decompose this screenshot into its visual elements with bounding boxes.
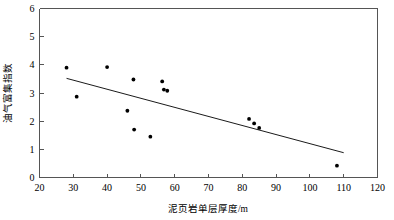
data-point <box>335 164 339 168</box>
x-tick-label: 120 <box>370 182 385 193</box>
y-tick-label: 4 <box>30 59 35 70</box>
x-tick-label: 80 <box>237 182 247 193</box>
y-tick-label: 5 <box>30 31 35 42</box>
data-point <box>160 80 164 84</box>
x-tick-label: 90 <box>271 182 281 193</box>
x-tick-label: 100 <box>302 182 317 193</box>
y-axis-title: 油气富集指数 <box>2 63 13 123</box>
data-point <box>252 122 256 126</box>
data-point <box>125 109 129 113</box>
data-point <box>247 117 251 121</box>
data-point <box>148 135 152 139</box>
chart-canvas: 2030405060708090100110120 0123456 泥页岩单层厚… <box>0 0 394 220</box>
chart-background <box>0 0 394 220</box>
x-tick-label: 110 <box>336 182 351 193</box>
y-tick-label: 0 <box>30 172 35 183</box>
x-axis-title: 泥页岩单层厚度/m <box>168 203 249 214</box>
data-point <box>132 78 136 82</box>
data-point <box>75 95 79 99</box>
x-tick-label: 50 <box>136 182 146 193</box>
x-tick-label: 20 <box>35 182 45 193</box>
x-tick-label: 60 <box>170 182 180 193</box>
y-tick-label: 2 <box>30 116 35 127</box>
data-point <box>165 89 169 93</box>
data-point <box>105 65 109 69</box>
scatter-chart: 2030405060708090100110120 0123456 泥页岩单层厚… <box>0 0 394 220</box>
data-point <box>257 126 261 130</box>
data-point <box>162 88 166 92</box>
data-point <box>132 128 136 132</box>
y-tick-label: 6 <box>30 3 35 14</box>
y-tick-label: 3 <box>30 88 35 99</box>
data-point <box>65 66 69 70</box>
x-tick-label: 70 <box>204 182 214 193</box>
x-tick-label: 40 <box>102 182 112 193</box>
y-tick-label: 1 <box>30 144 35 155</box>
x-tick-label: 30 <box>68 182 78 193</box>
